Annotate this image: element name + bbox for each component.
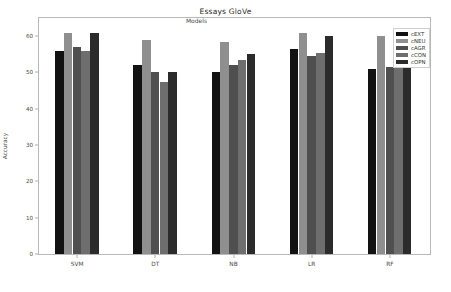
bar-nb-cagr — [229, 65, 237, 254]
bar-lr-cext — [290, 49, 298, 254]
y-tick-label: 10 — [26, 215, 33, 221]
y-tick-label: 50 — [26, 69, 33, 75]
y-tick-label: 30 — [26, 142, 33, 148]
x-tick-label: DT — [151, 261, 159, 267]
bar-nb-copn — [247, 54, 255, 254]
y-tick-label: 20 — [26, 178, 33, 184]
x-tick-label: RF — [386, 261, 393, 267]
bar-rf-copn — [403, 65, 411, 254]
bar-svm-cext — [55, 51, 63, 254]
x-tick-mark — [77, 255, 78, 258]
legend-swatch-icon — [396, 32, 408, 37]
bar-svm-cagr — [73, 47, 81, 254]
x-axis-label: Models — [0, 17, 393, 24]
bar-rf-ccon — [394, 67, 402, 254]
x-tick-mark — [155, 255, 156, 258]
plot-area — [38, 18, 429, 254]
chart-legend: cEXTcNEUcAGRcCONcOPN — [393, 28, 430, 68]
legend-label: cAGR — [411, 45, 425, 51]
legend-item-cneu: cNEU — [396, 38, 426, 44]
bar-dt-ccon — [160, 82, 168, 254]
legend-swatch-icon — [396, 53, 408, 58]
bar-rf-cext — [368, 69, 376, 254]
bar-nb-ccon — [238, 60, 246, 254]
bar-dt-cagr — [151, 72, 159, 254]
legend-swatch-icon — [396, 39, 408, 44]
bar-lr-copn — [325, 36, 333, 254]
bar-svm-ccon — [81, 51, 89, 254]
bar-lr-ccon — [316, 53, 324, 255]
bar-dt-cext — [133, 65, 141, 254]
x-tick-mark — [311, 255, 312, 258]
x-tick-mark — [233, 255, 234, 258]
bar-rf-cagr — [386, 67, 394, 254]
legend-item-ccon: cCON — [396, 52, 426, 58]
legend-item-cext: cEXT — [396, 31, 426, 37]
legend-label: cNEU — [411, 38, 425, 44]
bar-lr-cagr — [307, 56, 315, 254]
legend-label: cCON — [411, 52, 426, 58]
y-tick-label: 60 — [26, 33, 33, 39]
legend-item-cagr: cAGR — [396, 45, 426, 51]
y-tick-label: 0 — [29, 251, 33, 257]
legend-label: cEXT — [411, 31, 424, 37]
x-tick-label: SVM — [71, 261, 84, 267]
bar-lr-cneu — [299, 33, 307, 254]
x-tick-label: LR — [308, 261, 315, 267]
bar-svm-copn — [90, 33, 98, 254]
bar-rf-cneu — [377, 36, 385, 254]
legend-item-copn: cOPN — [396, 59, 426, 65]
legend-label: cOPN — [411, 59, 426, 65]
chart-figure: Essays GloVe 0102030405060 Accuracy SVMD… — [0, 0, 451, 292]
bar-nb-cneu — [220, 42, 228, 254]
x-tick-mark — [389, 255, 390, 258]
bar-dt-cneu — [142, 40, 150, 254]
legend-swatch-icon — [396, 46, 408, 51]
bar-svm-cneu — [64, 33, 72, 254]
bar-nb-cext — [212, 72, 220, 254]
legend-swatch-icon — [396, 60, 408, 65]
x-tick-label: NB — [229, 261, 237, 267]
y-axis-label: Accuracy — [2, 133, 8, 159]
chart-title: Essays GloVe — [0, 7, 451, 16]
bar-dt-copn — [168, 72, 176, 254]
y-tick-label: 40 — [26, 106, 33, 112]
x-axis: SVMDTNBLRRF — [38, 255, 431, 285]
